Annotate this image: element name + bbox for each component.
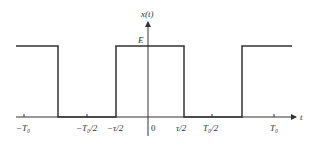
tick-label-minus-T0-half: −T₀/2 [76, 123, 98, 133]
tick-label-T0-half: T₀/2 [203, 123, 219, 133]
tick-label-tau-half: τ/2 [176, 123, 187, 133]
tick-label-minus-tau-half: −τ/2 [107, 123, 124, 133]
tick-label-minus-T0: −T₀ [16, 123, 30, 133]
waveform [16, 46, 292, 117]
y-axis-label: x(t) [140, 9, 154, 19]
amplitude-label: E [137, 35, 144, 45]
pulse-train-diagram: x(t) t E −T₀ −T₀/2 −τ/2 0 τ/2 T₀/2 T₀ [0, 0, 319, 149]
tick-label-T0: T₀ [270, 123, 278, 133]
x-axis-label: t [300, 112, 303, 122]
tick-label-zero: 0 [151, 123, 156, 133]
